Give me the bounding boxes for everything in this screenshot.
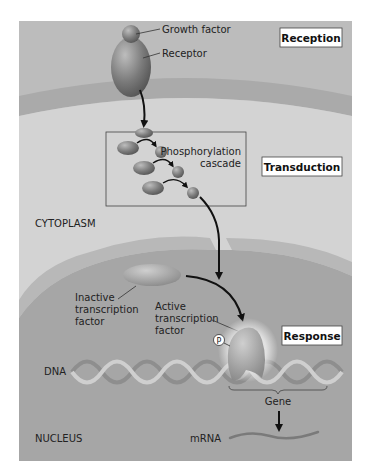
nucleus-region [19,249,352,461]
receptor-protein [111,37,151,97]
mrna-label: mRNA [190,433,221,444]
cascade-label-line2: cascade [200,158,241,169]
receptor-label: Receptor [162,48,208,59]
active-tf-line3: factor [155,325,185,336]
active-tf-line2: transcription [155,313,219,324]
stage-reception-label: Reception [281,32,340,44]
growth-factor-label: Growth factor [162,24,232,35]
cytoplasm-label: CYTOPLASM [35,218,96,229]
gene-label: Gene [265,396,291,407]
inactive-tf-line3: factor [75,316,105,327]
inactive-tf-line2: transcription [75,304,139,315]
cascade-label-line1: Phosphorylation [160,146,241,157]
stage-response-label: Response [283,330,340,342]
nucleus-label: NUCLEUS [35,433,82,444]
active-tf-line1: Active [155,301,186,312]
stage-transduction-label: Transduction [264,161,341,173]
inactive-transcription-factor [123,264,181,286]
signaling-diagram: Growth factor Receptor Reception Phospho… [0,0,366,473]
inactive-tf-line1: Inactive [75,292,115,303]
phosphate-label: P [217,337,222,346]
dna-label: DNA [44,366,66,377]
